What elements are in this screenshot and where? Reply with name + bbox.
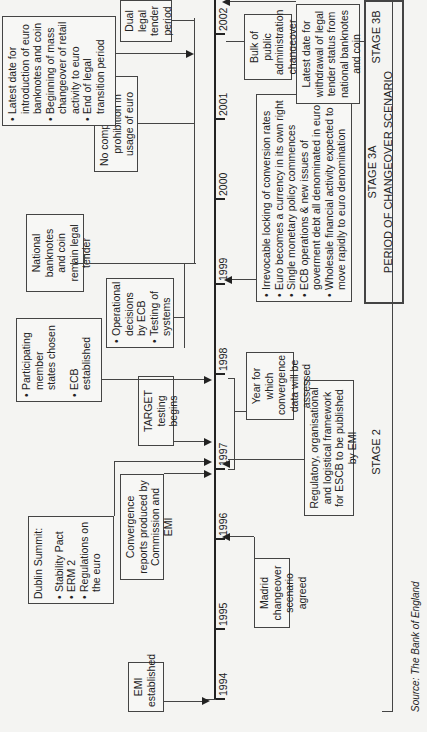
- event-operational-decisions: Operational decisions by ECB Testing of …: [106, 278, 174, 348]
- connector-withdrawal: [226, 1, 296, 2]
- tick-1995: [216, 628, 225, 630]
- connector-period-bar: [70, 263, 196, 264]
- stage-3a-label: STAGE 3A: [366, 132, 378, 212]
- bracket-1997: [228, 378, 235, 470]
- event-target-testing: TARGET testing begins: [138, 376, 174, 446]
- arrow-emi: [202, 697, 210, 705]
- connector-convergence: [164, 473, 206, 474]
- event-emi-established: EMI established: [128, 662, 164, 712]
- connector-emi: [164, 701, 206, 702]
- connector-madrid-h: [254, 537, 255, 558]
- event-national-banknotes-remain: National banknotes and coin remain legal…: [26, 214, 84, 292]
- arrow-regulatory: [222, 460, 230, 468]
- tick-2000: [216, 198, 225, 200]
- event-bulk-public-admin: Bulk of public administration changeover: [244, 14, 292, 80]
- arrow-convergence: [204, 470, 212, 478]
- year-label-2001: 2001: [217, 93, 229, 116]
- year-label-2000: 2000: [217, 173, 229, 196]
- arrow-dublin: [204, 458, 212, 466]
- connector-dublin-h: [114, 462, 115, 516]
- arrow-target: [204, 438, 212, 446]
- event-convergence-year: Year for which convergence data will be …: [246, 352, 294, 420]
- tick-1998: [216, 373, 225, 375]
- connector-regulatory: [228, 459, 304, 460]
- event-madrid-changeover: Madrid changeover scenario agreed: [254, 558, 290, 628]
- year-label-1994: 1994: [217, 673, 229, 696]
- connector-target: [174, 441, 206, 442]
- event-dublin-summit: Dublin Summit: Stability Pact ERM 2 Regu…: [28, 516, 114, 604]
- stage-2-label: STAGE 2: [370, 412, 382, 492]
- connector-operational-h: [184, 264, 185, 348]
- timeline-axis: [214, 0, 216, 700]
- event-irrevocable-locking: Irrevocable locking of conversion rates …: [256, 94, 352, 302]
- tick-2001: [216, 118, 225, 120]
- event-participating-states: Participating member states chosen ECB e…: [16, 318, 102, 402]
- connector-participating: [102, 379, 206, 380]
- connector-dual: [172, 20, 194, 21]
- dublin-item: Regulations on the euro: [78, 521, 103, 599]
- arrow-participating: [204, 376, 212, 384]
- arrow-withdrawal: [222, 0, 230, 6]
- source-caption: Source: The Bank of England: [410, 581, 421, 712]
- dublin-item: Stability Pact: [53, 521, 66, 599]
- connector-convergence-year: [234, 411, 246, 412]
- connector-national-h: [84, 254, 85, 264]
- stage-period-label: PERIOD OF CHANGEOVER SCENARIO: [382, 62, 394, 282]
- year-label-2002: 2002: [217, 8, 229, 31]
- event-latest-date-introduction: Latest date for introduction of euro ban…: [2, 16, 116, 126]
- stage-bracket-left: [382, 711, 392, 712]
- arrow-irrevocable: [224, 276, 232, 284]
- tick-1997: [216, 468, 225, 470]
- connector-no-compulsion-v: [138, 123, 194, 124]
- year-label-1998: 1998: [217, 348, 229, 371]
- connector-latest-date: [116, 53, 192, 54]
- stage-3b-label: STAGE 3B: [370, 2, 382, 72]
- connector-dublin: [114, 461, 206, 462]
- event-withdrawal-legal-tender: Latest date for withdrawal of legal tend…: [296, 4, 360, 104]
- connector-period-top: [194, 18, 195, 264]
- stage-3b-connector: [360, 41, 366, 42]
- year-label-1995: 1995: [217, 603, 229, 626]
- connector-bulk: [226, 41, 244, 42]
- tick-2002: [216, 33, 225, 35]
- arrow-latest-date: [186, 50, 194, 58]
- event-dual-legal-tender: Dual legal tender period: [120, 0, 172, 42]
- dublin-item: ERM 2: [65, 521, 78, 599]
- tick-1994: [216, 698, 225, 700]
- arrow-madrid: [222, 533, 230, 541]
- connector-national: [70, 263, 71, 264]
- event-convergence-reports: Convergence reports produced by Commissi…: [120, 474, 164, 580]
- timeline-diagram: 1994 1995 1996 1997 1998 1999 2000 2001 …: [0, 0, 427, 732]
- connector-operational-v: [174, 317, 184, 318]
